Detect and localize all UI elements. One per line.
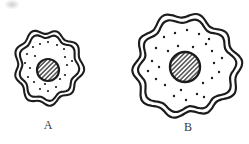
cytoplasm-dot [218,71,220,73]
cytoplasm-dot [196,93,198,95]
cytoplasm-dot [185,99,187,101]
cytoplasm-dot [55,86,57,88]
cytoplasm-dot [27,76,29,78]
cytoplasm-dot [186,29,188,31]
cytoplasm-dot [211,77,213,79]
cytoplasm-dot [205,43,207,45]
cytoplasm-dot [164,84,166,86]
cytoplasm-dot [211,50,213,52]
cytoplasm-dot [26,53,28,55]
cytoplasm-dot [180,89,182,91]
cytoplasm-dot [56,44,58,46]
cytoplasm-dot [213,62,215,64]
cytoplasm-dot [158,66,160,68]
cytoplasm-dot [33,81,35,83]
cytoplasm-dot [147,70,149,72]
cytoplasm-dot [177,45,179,47]
cytoplasm-dot [167,50,169,52]
cytoplasm-dot [173,95,175,97]
cytoplasm-dot [63,48,65,50]
cytoplasm-dot [174,32,176,34]
cell-b-label: B [184,120,192,134]
cell-b-nucleus [170,52,200,82]
cytoplasm-dot [32,46,34,48]
cytoplasm-dot [34,55,36,57]
cytoplasm-dot [155,47,157,49]
cytoplasm-dot [39,43,41,45]
cytoplasm-dot [192,46,194,48]
cytoplasm-dot [24,62,26,64]
cytoplasm-dot [47,41,49,43]
cytoplasm-dot [47,90,49,92]
cell-a-label: A [44,118,53,132]
cytoplasm-dot [151,60,153,62]
diagram-canvas: A B [0,0,249,144]
cytoplasm-dot [39,88,41,90]
cytoplasm-dot [221,57,223,59]
cytoplasm-dot [66,64,68,66]
cytoplasm-dot [64,74,66,76]
cytoplasm-dot [202,82,204,84]
cytoplasm-dot [163,36,165,38]
cytoplasm-dot [29,67,31,69]
cell-size-comparison-diagram: A B [0,0,249,144]
cell-a-nucleus [37,59,59,81]
cell-b [132,14,242,118]
cytoplasm-dot [64,56,66,58]
cytoplasm-dot [59,78,61,80]
cell-a [15,31,84,106]
cytoplasm-dot [44,83,46,85]
cytoplasm-dot [71,60,73,62]
cytoplasm-dot [155,78,157,80]
cytoplasm-dot [208,38,210,40]
cytoplasm-dot [203,96,205,98]
cytoplasm-dot [198,33,200,35]
